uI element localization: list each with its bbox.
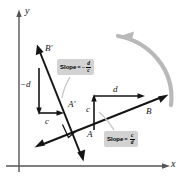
point-label-a-prime: A': [68, 100, 75, 109]
segment-label-run-left: c: [45, 117, 49, 126]
equals-sign-1: =: [77, 64, 80, 70]
fraction-denominator-2: d: [130, 139, 135, 146]
segment-label-run-right: d: [113, 85, 118, 94]
y-axis-label: y: [25, 6, 29, 16]
fraction-denominator-1: c: [86, 67, 90, 74]
point-label-a: A: [87, 130, 93, 139]
line-ab: [35, 94, 169, 147]
geometry-figure: [0, 0, 182, 185]
segment-label-rise-right: c: [86, 105, 90, 114]
segment-label-rise-left: −d: [20, 80, 31, 89]
slope-label-negative: Slope = − d c: [57, 59, 94, 75]
fraction-2: c d: [130, 133, 135, 145]
equals-sign-2: =: [124, 136, 127, 142]
rotation-arrow-icon: [118, 32, 171, 106]
minus-sign-1: −: [82, 64, 85, 70]
slope-word-2: Slope: [107, 136, 123, 142]
slope-label-positive: Slope = c d: [104, 131, 138, 147]
point-label-b-prime: B': [45, 44, 52, 53]
point-label-b: B: [146, 107, 152, 116]
axes: [6, 10, 170, 173]
fraction-1: d c: [86, 61, 91, 73]
slope-word-1: Slope: [60, 64, 76, 70]
x-axis-label: x: [171, 159, 175, 169]
